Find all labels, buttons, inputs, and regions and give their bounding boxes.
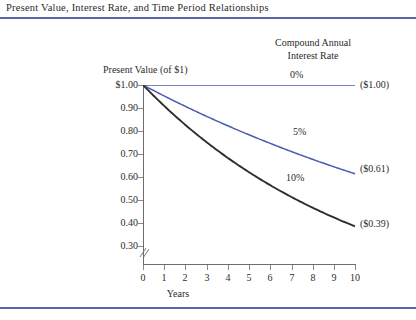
x-axis-tick — [249, 265, 250, 270]
end-value-label-10pct: ($0.39) — [360, 218, 389, 229]
title-divider — [0, 17, 416, 19]
x-axis-tick — [355, 265, 356, 270]
x-axis-tick — [292, 265, 293, 270]
x-tick-label: 6 — [258, 272, 282, 283]
x-axis-title-text: Years — [167, 288, 189, 299]
end-value-label-0pct: ($1.00) — [360, 79, 389, 90]
series-line-10pct — [143, 85, 355, 226]
y-tick-label: 0.50 — [94, 194, 138, 205]
curve-label-10pct: 10% — [286, 172, 304, 183]
y-tick-label: 0.30 — [94, 240, 138, 251]
legend-title-line2: Interest Rate — [243, 49, 383, 62]
y-tick-label: 0.40 — [94, 217, 138, 228]
x-tick-label: 10 — [343, 272, 367, 283]
y-tick-label: 0.70 — [94, 148, 138, 159]
series-line-5pct — [143, 85, 355, 174]
x-axis-tick — [334, 265, 335, 270]
legend-title: Compound Annual Interest Rate — [243, 36, 383, 62]
x-axis-tick — [270, 265, 271, 270]
x-tick-label: 2 — [173, 272, 197, 283]
curve-label-0pct: 0% — [290, 69, 303, 80]
chart-curves — [143, 85, 356, 265]
y-tick-label: 0.90 — [94, 102, 138, 113]
end-value-label-5pct: ($0.61) — [360, 163, 389, 174]
legend-title-line1: Compound Annual — [243, 36, 383, 49]
x-axis-tick — [207, 265, 208, 270]
x-axis-tick — [313, 265, 314, 270]
curve-label-5pct: 5% — [293, 126, 306, 137]
x-axis-tick — [228, 265, 229, 270]
y-tick-label: 0.80 — [94, 125, 138, 136]
x-axis-tick — [164, 265, 165, 270]
x-axis-title: Years — [0, 288, 416, 299]
figure-panel: Present Value, Interest Rate, and Time P… — [0, 0, 416, 320]
y-tick-label: 0.60 — [94, 171, 138, 182]
bottom-divider — [0, 307, 416, 309]
y-tick-label: $1.00 — [94, 79, 138, 90]
x-axis-tick — [143, 265, 144, 270]
x-axis-tick — [185, 265, 186, 270]
